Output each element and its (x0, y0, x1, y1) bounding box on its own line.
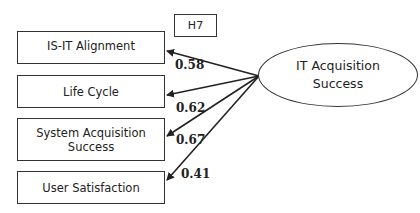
loading-system-acquisition-success: 0.67 (176, 133, 205, 147)
loading-user-satisfaction: 0.41 (181, 167, 210, 181)
indicator-label: System Acquisition Success (18, 126, 164, 154)
loading-is-it-alignment: 0.58 (175, 58, 204, 72)
indicator-user-satisfaction: User Satisfaction (17, 171, 165, 204)
latent-construct-ellipse: IT Acquisition Success (258, 43, 418, 107)
hypothesis-label: H7 (175, 15, 216, 36)
indicator-system-acquisition-success: System Acquisition Success (17, 118, 165, 161)
indicator-label: IS-IT Alignment (18, 39, 164, 53)
indicator-is-it-alignment: IS-IT Alignment (17, 31, 165, 64)
indicator-label: Life Cycle (18, 85, 164, 99)
hypothesis-box: H7 (174, 14, 217, 37)
indicator-label: User Satisfaction (18, 181, 164, 195)
loading-life-cycle: 0.62 (176, 101, 205, 115)
indicator-life-cycle: Life Cycle (17, 75, 165, 108)
latent-label: IT Acquisition Success (288, 57, 388, 93)
